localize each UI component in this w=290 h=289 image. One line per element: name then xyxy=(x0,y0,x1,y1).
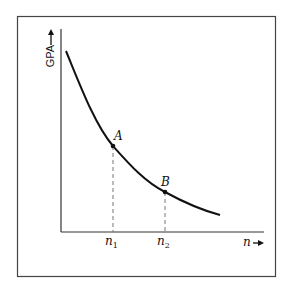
point-b-marker xyxy=(163,190,168,195)
tick-n1-sub: 1 xyxy=(113,241,118,250)
tick-n2-base: n xyxy=(157,234,165,248)
tick-n1-base: n xyxy=(105,234,113,248)
point-a-label: A xyxy=(114,130,123,142)
gpa-vs-n-diagram: GPA A B n1 n2 n xyxy=(0,0,290,289)
tick-n2-sub: 2 xyxy=(165,241,170,250)
x-arrowhead-icon xyxy=(258,240,264,246)
tick-n1: n1 xyxy=(105,235,118,250)
point-a-marker xyxy=(111,144,116,149)
gpa-curve xyxy=(66,51,220,215)
y-arrowhead-icon xyxy=(48,29,54,35)
point-b-label: B xyxy=(161,176,170,188)
y-axis-label: GPA xyxy=(45,43,57,69)
tick-n2: n2 xyxy=(157,235,170,250)
x-axis-label: n xyxy=(243,236,251,248)
